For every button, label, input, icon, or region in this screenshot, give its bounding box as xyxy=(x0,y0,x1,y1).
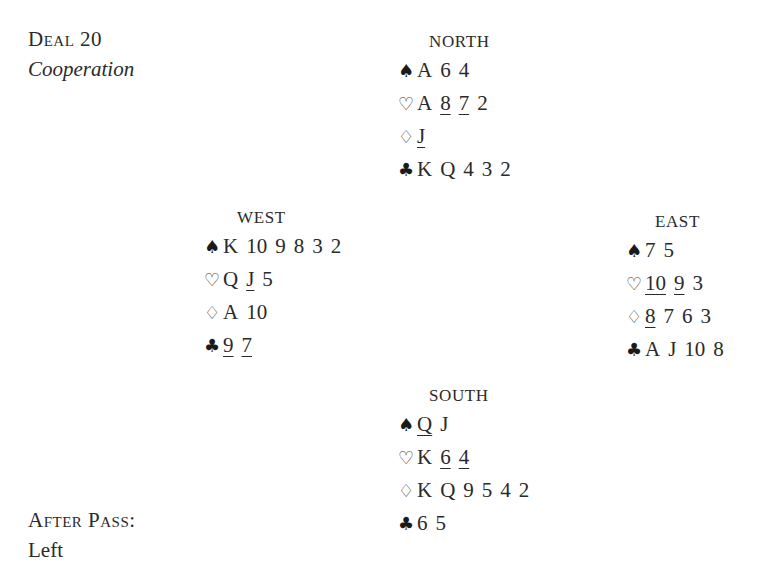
pass-direction: Left xyxy=(28,535,63,565)
card: J xyxy=(417,120,425,153)
heart-outline-icon: ♡ xyxy=(397,87,415,120)
west-diamonds-row: ♢A10 xyxy=(203,296,349,329)
club-icon: ♣ xyxy=(203,329,221,362)
card: K xyxy=(417,153,432,186)
card: K xyxy=(417,441,432,474)
card: 3 xyxy=(693,267,704,300)
south-spades-row: ♠QJ xyxy=(397,408,537,441)
card: 10 xyxy=(645,267,666,300)
card: Q xyxy=(417,408,432,441)
spade-icon: ♠ xyxy=(397,54,415,87)
north-clubs-row: ♣KQ432 xyxy=(397,153,519,186)
club-icon: ♣ xyxy=(625,333,643,366)
card: J xyxy=(440,408,448,441)
seat-label-north: NORTH xyxy=(397,30,519,54)
card: 2 xyxy=(331,230,342,263)
card: A xyxy=(417,87,432,120)
card: 7 xyxy=(645,234,656,267)
deal-subtitle: Cooperation xyxy=(28,54,134,84)
card: K xyxy=(223,230,238,263)
card: 8 xyxy=(645,300,656,333)
card: 4 xyxy=(459,441,470,474)
card: 7 xyxy=(459,87,470,120)
seat-label-east: EAST xyxy=(625,210,732,234)
club-icon: ♣ xyxy=(397,153,415,186)
spade-icon: ♠ xyxy=(397,408,415,441)
card: K xyxy=(417,474,432,507)
card: 5 xyxy=(436,507,447,540)
card: 5 xyxy=(262,263,273,296)
card: 10 xyxy=(246,230,267,263)
north-diamonds-row: ♢J xyxy=(397,120,519,153)
card: Q xyxy=(440,153,455,186)
card: 6 xyxy=(440,441,451,474)
west-spades-row: ♠K109832 xyxy=(203,230,349,263)
card: 7 xyxy=(664,300,675,333)
west-hearts-row: ♡QJ5 xyxy=(203,263,349,296)
card: 3 xyxy=(701,300,712,333)
west-clubs-row: ♣97 xyxy=(203,329,349,362)
hand-west: WEST ♠K109832♡QJ5♢A10♣97 xyxy=(203,206,349,362)
card: A xyxy=(223,296,238,329)
pass-label: After Pass: xyxy=(28,505,136,535)
card: 3 xyxy=(482,153,493,186)
diamond-outline-icon: ♢ xyxy=(625,300,643,333)
card: 2 xyxy=(477,87,488,120)
card: 2 xyxy=(500,153,511,186)
east-diamonds-row: ♢8763 xyxy=(625,300,732,333)
card: 7 xyxy=(242,329,253,362)
card: 4 xyxy=(500,474,511,507)
seat-label-south: SOUTH xyxy=(397,384,537,408)
card: 8 xyxy=(294,230,305,263)
card: 10 xyxy=(246,296,267,329)
hand-north: NORTH ♠A64♡A872♢J♣KQ432 xyxy=(397,30,519,186)
north-hearts-row: ♡A872 xyxy=(397,87,519,120)
truncated-body-text: Whe... xyxy=(28,570,83,577)
card: 5 xyxy=(664,234,675,267)
hand-east: EAST ♠75♡1093♢8763♣AJ108 xyxy=(625,210,732,366)
card: A xyxy=(417,54,432,87)
heart-outline-icon: ♡ xyxy=(625,267,643,300)
east-clubs-row: ♣AJ108 xyxy=(625,333,732,366)
card: J xyxy=(668,333,676,366)
card: 8 xyxy=(713,333,724,366)
club-icon: ♣ xyxy=(397,507,415,540)
heart-outline-icon: ♡ xyxy=(397,441,415,474)
south-diamonds-row: ♢KQ9542 xyxy=(397,474,537,507)
card: J xyxy=(246,263,254,296)
east-spades-row: ♠75 xyxy=(625,234,732,267)
seat-label-west: WEST xyxy=(203,206,349,230)
north-spades-row: ♠A64 xyxy=(397,54,519,87)
diamond-outline-icon: ♢ xyxy=(397,120,415,153)
card: Q xyxy=(440,474,455,507)
heart-outline-icon: ♡ xyxy=(203,263,221,296)
card: 9 xyxy=(275,230,286,263)
card: Q xyxy=(223,263,238,296)
east-hearts-row: ♡1093 xyxy=(625,267,732,300)
card: 5 xyxy=(482,474,493,507)
card: 6 xyxy=(682,300,693,333)
card: 9 xyxy=(223,329,234,362)
diamond-outline-icon: ♢ xyxy=(397,474,415,507)
card: 4 xyxy=(459,54,470,87)
card: 6 xyxy=(440,54,451,87)
card: 8 xyxy=(440,87,451,120)
spade-icon: ♠ xyxy=(203,230,221,263)
card: 2 xyxy=(519,474,530,507)
card: 3 xyxy=(312,230,323,263)
hand-south: SOUTH ♠QJ♡K64♢KQ9542♣65 xyxy=(397,384,537,540)
card: A xyxy=(645,333,660,366)
deal-number: Deal 20 xyxy=(28,24,102,54)
diamond-outline-icon: ♢ xyxy=(203,296,221,329)
card: 9 xyxy=(463,474,474,507)
card: 6 xyxy=(417,507,428,540)
spade-icon: ♠ xyxy=(625,234,643,267)
card: 10 xyxy=(684,333,705,366)
south-hearts-row: ♡K64 xyxy=(397,441,537,474)
south-clubs-row: ♣65 xyxy=(397,507,537,540)
card: 4 xyxy=(463,153,474,186)
card: 9 xyxy=(674,267,685,300)
